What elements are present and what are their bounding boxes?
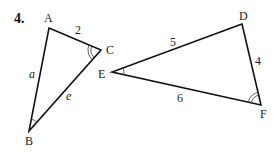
problem-number: 4. — [14, 11, 25, 26]
side-df-label: 4 — [255, 54, 261, 68]
triangle-def-edges — [112, 24, 261, 105]
side-ef-label: 6 — [177, 91, 183, 105]
vertex-e-label: E — [98, 67, 105, 81]
side-ab-label: a — [29, 67, 35, 81]
vertex-f-label: F — [260, 107, 267, 121]
geometry-figure: 4. A C B 2 a e D E F 5 4 6 — [0, 0, 280, 152]
triangle-abc-edges — [29, 28, 101, 131]
angle-b-arc-icon — [31, 119, 37, 122]
angle-e-arc-icon — [123, 68, 124, 75]
triangle-def: D E F 5 4 6 — [98, 9, 267, 121]
side-bc-label: e — [66, 89, 72, 103]
vertex-a-label: A — [44, 11, 53, 25]
vertex-d-label: D — [239, 9, 248, 23]
side-de-label: 5 — [170, 35, 176, 49]
vertex-b-label: B — [25, 134, 33, 148]
side-ac-label: 2 — [75, 23, 81, 37]
angle-f-double-arc-icon — [248, 92, 259, 102]
vertex-c-label: C — [106, 43, 114, 57]
